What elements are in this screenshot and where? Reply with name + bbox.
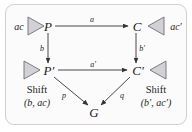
figure-panel: P C P′ C′ G a b b′ a′ p q ac ac′ Shift (… <box>5 4 187 125</box>
commutative-diagram: P C P′ C′ G a b b′ a′ p q ac ac′ Shift (… <box>6 5 188 126</box>
shift-right-args: (b′, ac′) <box>141 97 172 109</box>
shift-left-word: Shift <box>27 84 48 95</box>
shift-right-word: Shift <box>146 84 167 95</box>
triangle-right-icon-top-left <box>28 17 44 35</box>
triangle-left-icon-bottom-right <box>150 61 166 79</box>
node-c-prime: C′ <box>132 63 144 78</box>
side-label-ac: ac <box>14 21 24 32</box>
edge-label-q: q <box>120 91 124 100</box>
triangle-right-icon-bottom-left <box>24 61 40 79</box>
node-g: G <box>89 105 99 120</box>
node-p: P <box>43 19 52 34</box>
edge-label-b-prime: b′ <box>139 44 145 53</box>
edge-label-p: p <box>61 91 66 100</box>
edge-label-b: b <box>40 44 44 53</box>
node-p-prime: P′ <box>43 63 55 78</box>
shift-left-args: (b, ac) <box>24 97 51 109</box>
edge-label-a-prime: a′ <box>90 60 96 69</box>
side-label-ac-prime: ac′ <box>170 21 182 32</box>
edge-c-prime-to-g <box>101 77 130 105</box>
edge-p-prime-to-g <box>54 77 88 105</box>
triangle-left-icon-top-right <box>148 17 164 35</box>
edge-label-a: a <box>90 15 94 24</box>
node-c: C <box>133 19 142 34</box>
